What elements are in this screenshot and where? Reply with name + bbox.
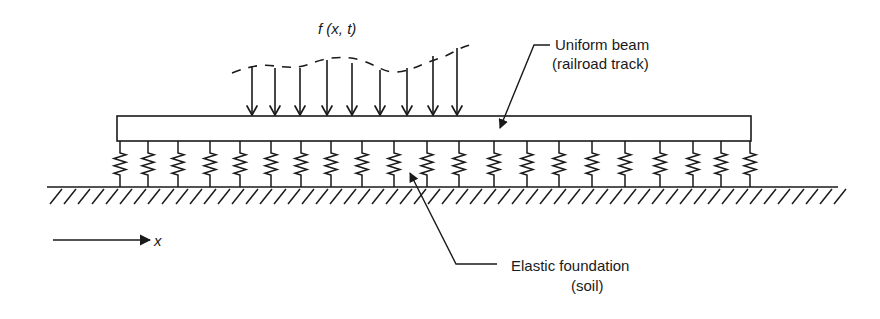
hatch-line (358, 189, 370, 204)
hatch-line (834, 189, 846, 204)
spring (356, 141, 368, 187)
hatch-line (596, 189, 608, 204)
hatch-line (120, 189, 132, 204)
hatch-line (302, 189, 314, 204)
hatch-line (232, 189, 244, 204)
beam-on-elastic-foundation-diagram: f (x, t) Uniform beam (railroad track) E… (0, 0, 880, 319)
hatch-line (680, 189, 692, 204)
hatch-line (78, 189, 90, 204)
hatch-line (736, 189, 748, 204)
hatch-line (540, 189, 552, 204)
foundation-label-line2: (soil) (571, 277, 604, 294)
hatch-line (64, 189, 76, 204)
hatch-line (638, 189, 650, 204)
spring (142, 141, 154, 187)
hatch-line (134, 189, 146, 204)
hatch-line (218, 189, 230, 204)
hatch-line (386, 189, 398, 204)
hatch-line (372, 189, 384, 204)
spring (295, 141, 307, 187)
spring (204, 141, 216, 187)
hatch-line (764, 189, 776, 204)
hatch-line (316, 189, 328, 204)
spring (715, 141, 727, 187)
hatch-line (260, 189, 272, 204)
hatch-line (288, 189, 300, 204)
spring (586, 141, 598, 187)
hatch-line (610, 189, 622, 204)
hatch-line (666, 189, 678, 204)
hatch-line (442, 189, 454, 204)
spring (521, 141, 533, 187)
hatch-line (484, 189, 496, 204)
spring (619, 141, 631, 187)
hatch-line (652, 189, 664, 204)
hatch-line (400, 189, 412, 204)
hatch-line (148, 189, 160, 204)
hatch-line (820, 189, 832, 204)
spring (388, 141, 400, 187)
hatch-line (498, 189, 510, 204)
spring (325, 141, 337, 187)
spring (421, 141, 433, 187)
spring (453, 141, 465, 187)
hatch-line (470, 189, 482, 204)
hatch-line (806, 189, 818, 204)
beam-label-line2: (railroad track) (552, 55, 649, 72)
hatch-line (722, 189, 734, 204)
spring (687, 141, 699, 187)
hatch-line (176, 189, 188, 204)
hatch-line (204, 189, 216, 204)
hatch-line (50, 189, 62, 204)
hatch-line (526, 189, 538, 204)
hatch-line (106, 189, 118, 204)
spring (553, 141, 565, 187)
hatch-line (778, 189, 790, 204)
hatch-line (274, 189, 286, 204)
spring (114, 141, 126, 187)
hatch-line (582, 189, 594, 204)
hatch-line (750, 189, 762, 204)
spring (265, 141, 277, 187)
hatch-line (456, 189, 468, 204)
hatch-line (246, 189, 258, 204)
foundation-label-line1: Elastic foundation (511, 257, 629, 274)
spring (234, 141, 246, 187)
spring (488, 141, 500, 187)
hatch-line (344, 189, 356, 204)
hatch-line (330, 189, 342, 204)
load-distribution-curve (232, 45, 470, 73)
elastic-foundation-springs (114, 141, 756, 187)
hatch-line (624, 189, 636, 204)
hatch-line (92, 189, 104, 204)
hatch-line (568, 189, 580, 204)
hatch-line (554, 189, 566, 204)
spring (172, 141, 184, 187)
hatch-line (512, 189, 524, 204)
hatch-line (792, 189, 804, 204)
x-axis-label: x (153, 232, 162, 249)
ground-hatching (50, 189, 846, 204)
hatch-line (190, 189, 202, 204)
beam-label-line1: Uniform beam (555, 36, 649, 53)
hatch-line (162, 189, 174, 204)
load-label: f (x, t) (318, 20, 356, 37)
hatch-line (708, 189, 720, 204)
spring (654, 141, 666, 187)
uniform-beam (117, 116, 751, 141)
hatch-line (428, 189, 440, 204)
spring (744, 141, 756, 187)
hatch-line (694, 189, 706, 204)
